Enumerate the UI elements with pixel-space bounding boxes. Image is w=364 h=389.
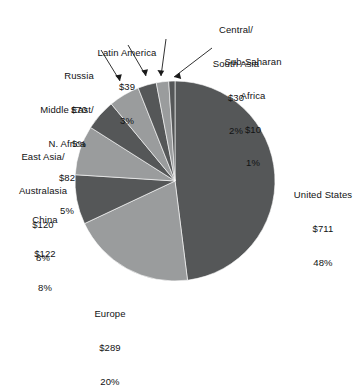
slice-label-russia-line1: Russia (49, 70, 109, 81)
slice-label-united-states-line1: United States (284, 189, 362, 200)
slice-label-united-states-percent: 48% (284, 257, 362, 268)
slice-label-europe-line1: Europe (77, 308, 143, 319)
slice-label-china-line1: China (14, 214, 76, 225)
slice-label-united-states-value: $711 (284, 223, 362, 234)
slice-label-europe: Europe $289 20% (77, 286, 143, 389)
slice-label-sub-saharan-africa-line1: Sub-Saharan (198, 56, 308, 67)
slice-label-europe-value: $289 (77, 342, 143, 353)
slice-label-united-states: United States $711 48% (284, 167, 362, 290)
slice-label-sub-saharan-africa-value: $10 (198, 124, 308, 135)
slice-label-china-value: $122 (14, 248, 76, 259)
slice-label-middle-east-line1: Middle East/ (23, 104, 111, 115)
slice-label-sub-saharan-africa-line2: Africa (198, 90, 308, 101)
slice-label-china-percent: 8% (14, 282, 76, 293)
slice-label-east-asia-line1: East Asia/ (3, 151, 83, 162)
slice-label-china: China $122 8% (14, 192, 76, 315)
slice-label-europe-percent: 20% (77, 376, 143, 387)
